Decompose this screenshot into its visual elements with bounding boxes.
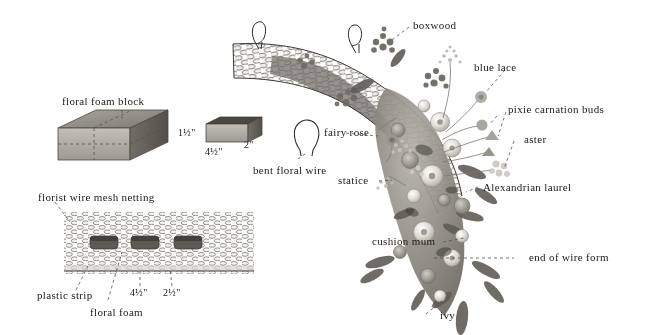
- label-mesh-dim-block: 4½": [130, 288, 148, 298]
- label-ivy: ivy: [440, 310, 455, 321]
- bent-floral-wire-illustration: [294, 120, 318, 156]
- label-floral-foam: floral foam: [90, 307, 143, 318]
- leader-pixie-carnation-buds: [498, 112, 506, 136]
- diagram-canvas: floral foam block 1½" 4½" 2" bent floral…: [0, 0, 645, 335]
- label-pixie-carnation-buds: pixie carnation buds: [508, 104, 604, 115]
- label-alexandrian-laurel: Alexandrian laurel: [483, 182, 571, 193]
- label-plastic-strip: plastic strip: [37, 290, 93, 301]
- label-fairy-rose: fairy rose: [324, 127, 369, 138]
- leader-blue-lace-2: [489, 116, 497, 125]
- leader-bent-floral-wire: [298, 152, 308, 159]
- label-florist-wire-mesh-netting: florist wire mesh netting: [38, 192, 155, 203]
- wire-mesh-netting-illustration: [60, 208, 260, 280]
- label-mesh-dim-gap: 2½": [163, 288, 181, 298]
- label-statice: statice: [338, 175, 369, 186]
- embedded-foam-blocks: [90, 236, 202, 249]
- leader-blue-lace: [486, 70, 505, 92]
- label-end-of-wire-form: end of wire form: [529, 252, 609, 263]
- label-bent-floral-wire: bent floral wire: [253, 165, 326, 176]
- label-blue-lace: blue lace: [474, 62, 517, 73]
- label-boxwood: boxwood: [413, 20, 456, 31]
- leader-aster: [504, 141, 514, 169]
- label-cushion-mum: cushion mum: [372, 236, 435, 247]
- blue-lace-flower: [439, 46, 462, 119]
- wire-loop: [348, 25, 361, 53]
- label-aster: aster: [524, 134, 547, 145]
- label-floral-foam-block: floral foam block: [62, 96, 144, 107]
- label-dim-length: 4½": [205, 147, 223, 157]
- label-dim-height: 1½": [178, 128, 196, 138]
- floral-foam-block-illustration: [58, 110, 168, 160]
- leader-boxwood: [392, 27, 409, 40]
- label-dim-depth: 2": [244, 140, 254, 150]
